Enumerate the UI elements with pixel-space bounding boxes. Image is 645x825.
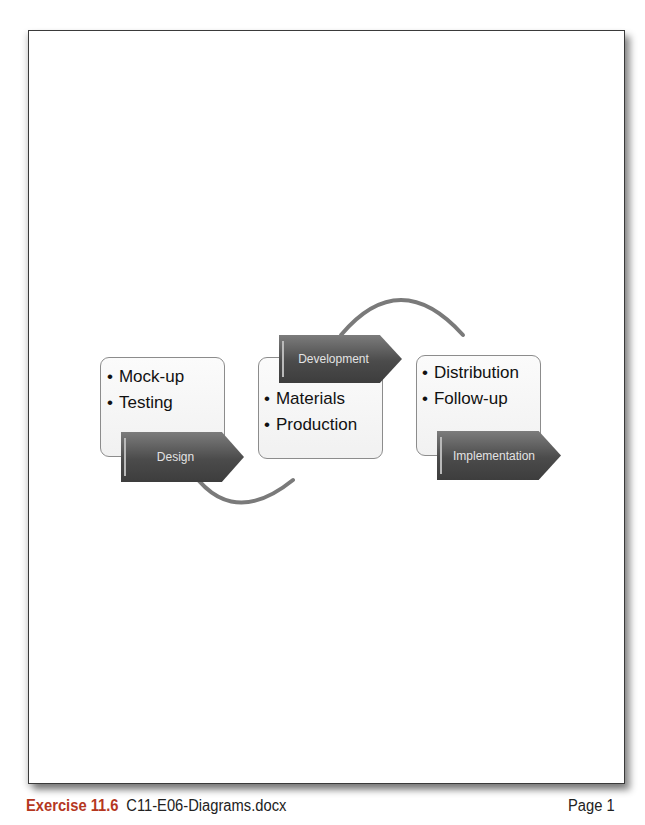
bullet-materials: Materials <box>264 386 382 412</box>
bullet-distribution: Distribution <box>422 360 540 386</box>
bullet-mock-up: Mock-up <box>107 364 224 390</box>
bullet-production: Production <box>264 412 382 438</box>
design-label: Design <box>157 450 194 464</box>
highlight-stripe <box>124 438 126 476</box>
highlight-stripe <box>440 437 442 474</box>
page-number: Page 1 <box>568 797 615 815</box>
development-arrow: Development <box>279 335 402 383</box>
implementation-arrow: Implementation <box>437 431 561 480</box>
highlight-stripe <box>282 341 284 377</box>
bullet-testing: Testing <box>107 390 224 416</box>
design-arrow: Design <box>121 432 244 482</box>
development-label: Development <box>298 352 369 366</box>
implementation-label: Implementation <box>453 449 535 463</box>
file-name: C11-E06-Diagrams.docx <box>126 797 286 814</box>
connector-arc-development-to-implementation <box>341 300 463 335</box>
bullet-follow-up: Follow-up <box>422 386 540 412</box>
exercise-number: Exercise 11.6 <box>26 797 119 814</box>
footer-caption: Exercise 11.6 C11-E06-Diagrams.docx <box>26 797 286 815</box>
